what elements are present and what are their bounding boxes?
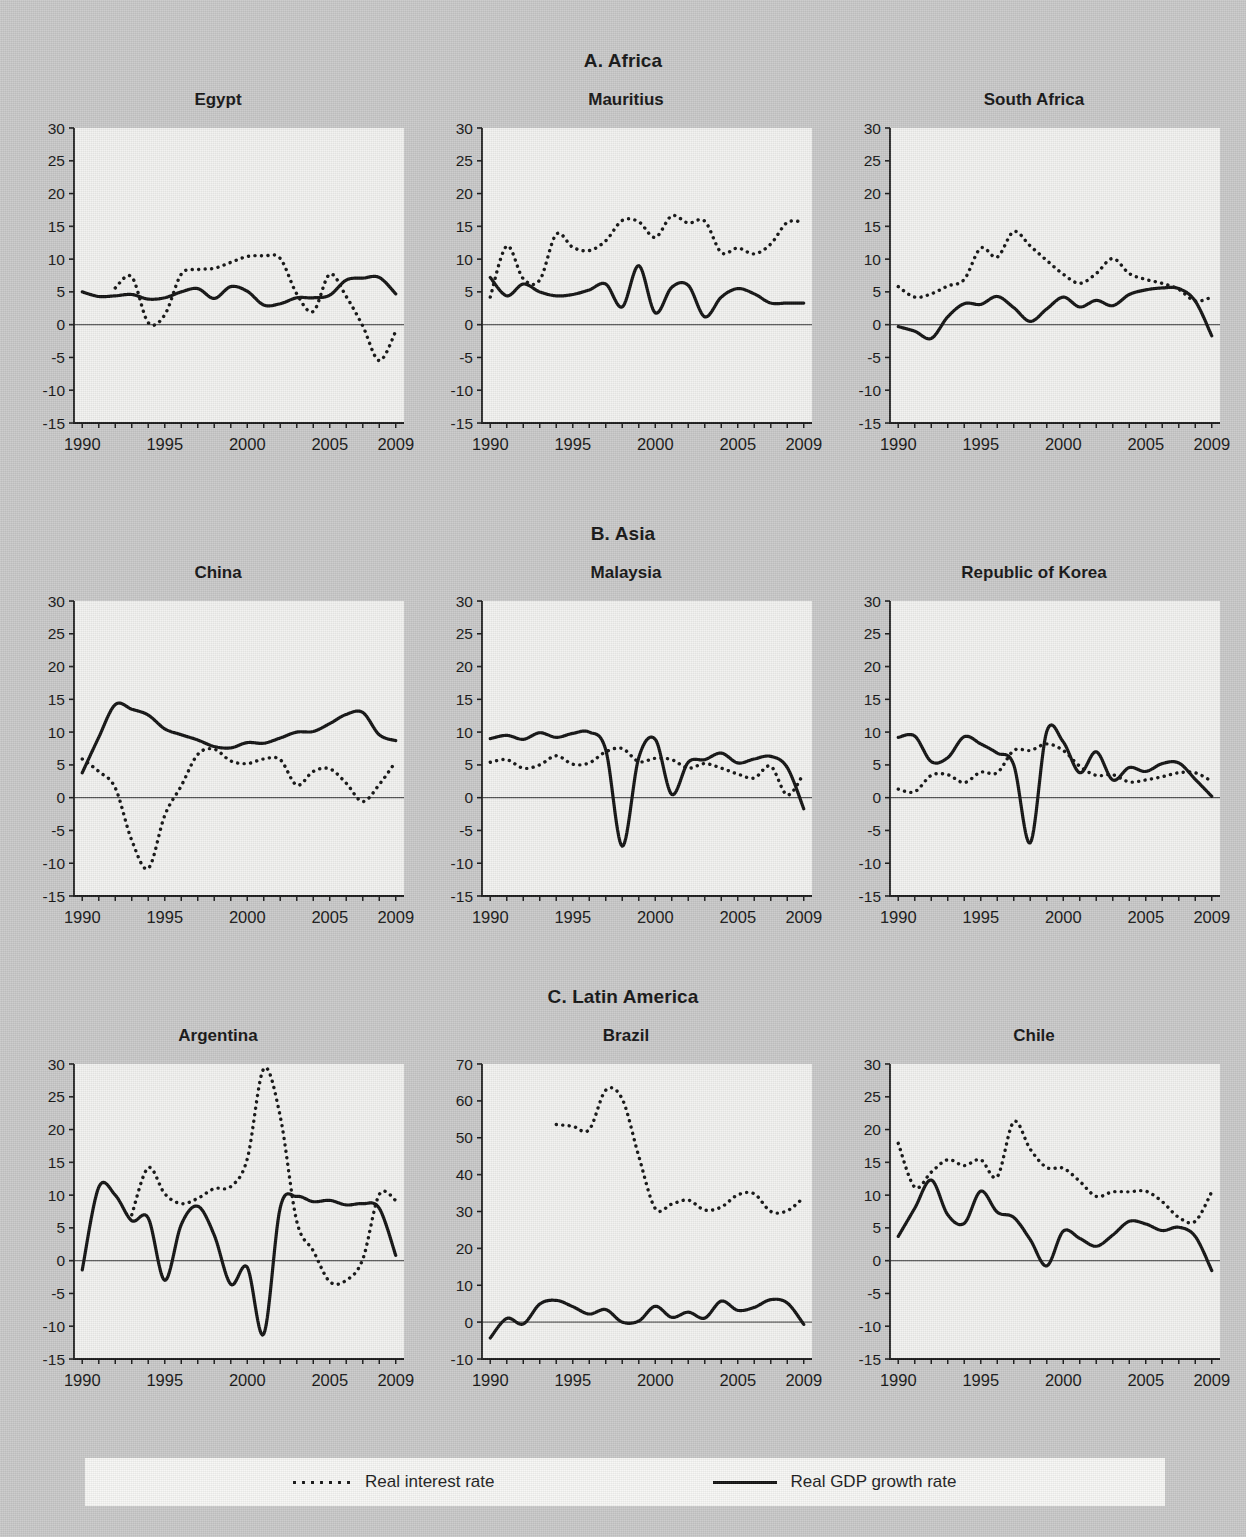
- plot-area: 302520151050-5-10-1519901995200020052009: [22, 1050, 414, 1405]
- y-tick-label: 30: [48, 120, 66, 137]
- x-tick-label: 1990: [472, 1371, 509, 1389]
- y-tick-label: 30: [864, 593, 882, 610]
- y-tick-label: 30: [456, 1203, 474, 1220]
- y-tick-label: 0: [872, 789, 881, 806]
- y-tick-label: 15: [48, 218, 65, 235]
- x-tick-label: 1990: [64, 1371, 101, 1389]
- legend-item-gdp-growth: Real GDP growth rate: [713, 1472, 956, 1492]
- x-tick-label: 1995: [146, 435, 183, 453]
- y-tick-label: -10: [859, 855, 882, 872]
- panel-brazil: Brazil706050403020100-101990199520002005…: [430, 1026, 822, 1405]
- plot-wrap: 302520151050-5-10-1519901995200020052009: [430, 587, 822, 942]
- y-tick-label: 20: [456, 658, 474, 675]
- plot-area: 302520151050-5-10-1519901995200020052009: [430, 114, 822, 469]
- y-tick-label: -15: [43, 1351, 65, 1368]
- y-tick-label: -5: [51, 822, 65, 839]
- panel-title: Mauritius: [430, 90, 822, 110]
- x-tick-label: 1995: [554, 435, 591, 453]
- plot-wrap: 302520151050-5-10-1519901995200020052009: [838, 114, 1230, 469]
- y-tick-label: -10: [451, 382, 474, 399]
- y-tick-label: -10: [859, 382, 882, 399]
- x-tick-label: 2005: [719, 435, 756, 453]
- plot-wrap: 302520151050-5-10-1519901995200020052009: [22, 114, 414, 469]
- panel-title: Republic of Korea: [838, 563, 1230, 583]
- x-tick-label: 1995: [146, 908, 183, 926]
- solid-line-icon: [713, 1475, 777, 1489]
- x-tick-label: 2009: [377, 908, 414, 926]
- plot-background: [482, 128, 812, 423]
- y-tick-label: 25: [48, 152, 65, 169]
- y-tick-label: 5: [872, 1219, 881, 1236]
- x-tick-label: 2009: [785, 1371, 822, 1389]
- x-tick-label: 1990: [64, 435, 101, 453]
- y-tick-label: -15: [451, 415, 473, 432]
- y-tick-label: 30: [48, 593, 66, 610]
- x-tick-label: 2005: [311, 908, 348, 926]
- legend: Real interest rate Real GDP growth rate: [85, 1458, 1165, 1506]
- x-tick-label: 2009: [785, 435, 822, 453]
- y-tick-label: 10: [456, 724, 474, 741]
- y-tick-label: 10: [864, 251, 882, 268]
- x-tick-label: 1990: [472, 908, 509, 926]
- y-tick-label: 25: [864, 152, 881, 169]
- x-tick-label: 2000: [1045, 1371, 1082, 1389]
- y-tick-label: -5: [867, 822, 881, 839]
- y-tick-label: -10: [451, 1351, 474, 1368]
- x-tick-label: 2005: [311, 1371, 348, 1389]
- y-tick-label: 30: [456, 120, 474, 137]
- y-tick-label: 5: [872, 756, 881, 773]
- y-tick-label: 15: [864, 691, 881, 708]
- panel-argentina: Argentina302520151050-5-10-1519901995200…: [22, 1026, 414, 1405]
- y-tick-label: 5: [872, 283, 881, 300]
- y-tick-label: -5: [51, 349, 65, 366]
- panel-malaysia: Malaysia302520151050-5-10-15199019952000…: [430, 563, 822, 942]
- legend-label-gdp-growth: Real GDP growth rate: [790, 1472, 956, 1492]
- y-tick-label: 15: [864, 1154, 881, 1171]
- section-title-latin-america: C. Latin America: [0, 986, 1246, 1008]
- y-tick-label: 30: [864, 120, 882, 137]
- y-tick-label: 70: [456, 1056, 474, 1073]
- y-tick-label: 30: [456, 593, 474, 610]
- x-tick-label: 2000: [229, 1371, 266, 1389]
- y-tick-label: 10: [864, 724, 882, 741]
- dotted-line-icon: [290, 1475, 352, 1489]
- y-tick-label: 25: [456, 152, 473, 169]
- legend-label-interest-rate: Real interest rate: [365, 1472, 494, 1492]
- y-tick-label: 10: [456, 1277, 474, 1294]
- plot-wrap: 302520151050-5-10-1519901995200020052009: [22, 587, 414, 942]
- legend-item-interest-rate: Real interest rate: [290, 1472, 494, 1492]
- x-tick-label: 2009: [377, 1371, 414, 1389]
- x-tick-label: 2005: [1127, 1371, 1164, 1389]
- y-tick-label: 5: [56, 1219, 65, 1236]
- x-tick-label: 2005: [719, 908, 756, 926]
- y-tick-label: 10: [48, 724, 66, 741]
- y-tick-label: -15: [859, 415, 881, 432]
- plot-area: 302520151050-5-10-1519901995200020052009: [22, 587, 414, 942]
- plot-background: [890, 601, 1220, 896]
- x-tick-label: 1995: [962, 908, 999, 926]
- plot-wrap: 302520151050-5-10-1519901995200020052009: [22, 1050, 414, 1405]
- x-tick-label: 1995: [146, 1371, 183, 1389]
- plot-background: [890, 1064, 1220, 1359]
- y-tick-label: 5: [56, 283, 65, 300]
- plot-background: [74, 601, 404, 896]
- y-tick-label: 25: [864, 625, 881, 642]
- y-tick-label: 0: [464, 1314, 473, 1331]
- y-tick-label: 25: [48, 1088, 65, 1105]
- y-tick-label: 15: [864, 218, 881, 235]
- y-tick-label: 15: [456, 691, 473, 708]
- y-tick-label: 20: [48, 658, 66, 675]
- plot-area: 706050403020100-1019901995200020052009: [430, 1050, 822, 1405]
- y-tick-label: -15: [451, 888, 473, 905]
- x-tick-label: 2005: [719, 1371, 756, 1389]
- x-tick-label: 2005: [1127, 908, 1164, 926]
- y-tick-label: 20: [48, 1121, 66, 1138]
- y-tick-label: -5: [867, 349, 881, 366]
- y-tick-label: -10: [43, 1318, 66, 1335]
- y-tick-label: 0: [56, 789, 65, 806]
- x-tick-label: 1995: [962, 1371, 999, 1389]
- plot-wrap: 302520151050-5-10-1519901995200020052009: [838, 587, 1230, 942]
- x-tick-label: 2005: [1127, 435, 1164, 453]
- y-tick-label: 25: [864, 1088, 881, 1105]
- panel-mauritius: Mauritius302520151050-5-10-1519901995200…: [430, 90, 822, 469]
